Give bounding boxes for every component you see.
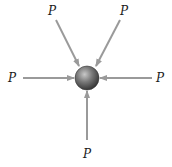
force-arrow-upper-left (56, 20, 79, 66)
force-label-upper-left: P (47, 4, 57, 18)
force-label-bottom: P (82, 147, 92, 161)
diagram-canvas: PPPPP (0, 0, 172, 167)
force-label-right: P (155, 71, 165, 85)
particle-sphere (75, 66, 99, 90)
force-label-upper-right: P (119, 4, 129, 18)
force-arrow-upper-right (96, 20, 120, 66)
force-diagram: PPPPP (0, 0, 172, 167)
force-label-left: P (7, 71, 17, 85)
